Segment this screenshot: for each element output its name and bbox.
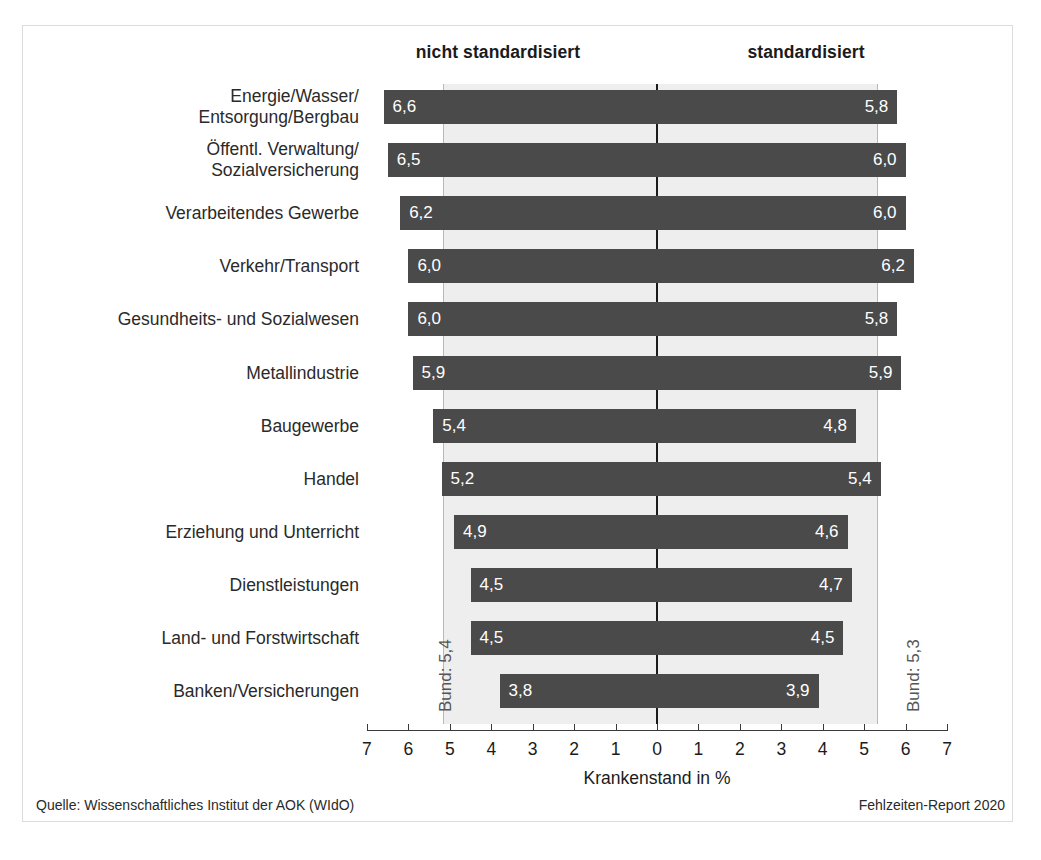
bund-label-left: Bund: 5,4: [436, 639, 456, 712]
bar-nicht-standardisiert: 5,2: [442, 462, 657, 496]
bar-value-label: 3,9: [786, 681, 810, 701]
x-axis-tick-label: 1: [611, 739, 621, 760]
category-label-line1: Verarbeitendes Gewerbe: [165, 203, 359, 223]
bar-value-label: 4,9: [463, 522, 487, 542]
category-label: Metallindustrie: [246, 362, 359, 383]
x-axis-tick: [491, 724, 492, 731]
bar-value-label: 6,0: [417, 309, 441, 329]
x-axis-tick: [450, 724, 451, 731]
category-label-line2: Entsorgung/Bergbau: [198, 107, 359, 128]
bar-nicht-standardisiert: 6,0: [408, 249, 657, 283]
category-label: Land- und Forstwirtschaft: [162, 628, 359, 649]
bar-value-label: 5,8: [865, 309, 889, 329]
x-axis-tick-label: 3: [528, 739, 538, 760]
bar-value-label: 5,9: [869, 363, 893, 383]
bar-value-label: 5,9: [422, 363, 446, 383]
bar-standardisiert: 4,7: [657, 568, 852, 602]
chart-row: Dienstleistungen4,54,7: [0, 568, 1041, 602]
bar-standardisiert: 5,8: [657, 302, 897, 336]
chart-row: Baugewerbe5,44,8: [0, 409, 1041, 443]
category-label: Verkehr/Transport: [220, 256, 359, 277]
x-axis-tick-label: 2: [569, 739, 579, 760]
chart-row: Energie/Wasser/Entsorgung/Bergbau6,65,8: [0, 90, 1041, 124]
bar-standardisiert: 5,4: [657, 462, 881, 496]
bar-standardisiert: 4,8: [657, 409, 856, 443]
bar-value-label: 6,0: [873, 203, 897, 223]
bar-standardisiert: 5,9: [657, 356, 901, 390]
chart-row: Öffentl. Verwaltung/Sozialversicherung6,…: [0, 143, 1041, 177]
category-label-line1: Metallindustrie: [246, 362, 359, 382]
footer-source: Quelle: Wissenschaftliches Institut der …: [36, 797, 354, 813]
x-axis-tick-label: 6: [901, 739, 911, 760]
category-label-line1: Dienstleistungen: [230, 574, 359, 594]
bar-nicht-standardisiert: 4,5: [471, 621, 657, 655]
footer-report: Fehlzeiten-Report 2020: [859, 797, 1005, 813]
x-axis-tick: [616, 724, 617, 731]
category-label-line1: Energie/Wasser/: [230, 86, 359, 106]
bar-value-label: 6,5: [397, 150, 421, 170]
x-axis-tick: [740, 724, 741, 731]
category-label: Banken/Versicherungen: [173, 681, 359, 702]
category-label: Handel: [304, 468, 359, 489]
x-axis-tick-label: 7: [942, 739, 952, 760]
bund-label-right: Bund: 5,3: [904, 639, 924, 712]
category-label: Dienstleistungen: [230, 574, 359, 595]
x-axis-tick-label: 6: [404, 739, 414, 760]
bar-nicht-standardisiert: 3,8: [500, 674, 657, 708]
x-axis-tick: [367, 724, 368, 731]
panel-title-nicht-standardisiert: nicht standardisiert: [416, 42, 580, 63]
bar-value-label: 6,0: [873, 150, 897, 170]
bar-value-label: 5,4: [848, 469, 872, 489]
x-axis-title: Krankenstand in %: [584, 768, 731, 789]
x-axis-tick: [574, 724, 575, 731]
chart-row: Gesundheits- und Sozialwesen6,05,8: [0, 302, 1041, 336]
bar-value-label: 6,2: [409, 203, 433, 223]
category-label: Verarbeitendes Gewerbe: [165, 203, 359, 224]
x-axis-tick-label: 5: [445, 739, 455, 760]
bar-nicht-standardisiert: 4,9: [454, 515, 657, 549]
bar-standardisiert: 4,6: [657, 515, 848, 549]
bar-standardisiert: 6,0: [657, 143, 906, 177]
x-axis-tick-label: 3: [776, 739, 786, 760]
x-axis-tick: [781, 724, 782, 731]
x-axis-tick-label: 0: [652, 739, 662, 760]
category-label-line1: Verkehr/Transport: [220, 256, 359, 276]
category-label: Energie/Wasser/Entsorgung/Bergbau: [198, 86, 359, 128]
bar-value-label: 6,6: [393, 97, 417, 117]
x-axis-tick-label: 4: [818, 739, 828, 760]
x-axis-tick: [823, 724, 824, 731]
category-label-line1: Handel: [304, 468, 359, 488]
category-label: Gesundheits- und Sozialwesen: [118, 309, 359, 330]
x-axis-tick-label: 5: [859, 739, 869, 760]
chart-row: Verarbeitendes Gewerbe6,26,0: [0, 196, 1041, 230]
bar-standardisiert: 4,5: [657, 621, 843, 655]
x-axis-tick-label: 7: [362, 739, 372, 760]
x-axis-tick: [657, 724, 658, 731]
bar-standardisiert: 6,0: [657, 196, 906, 230]
bar-nicht-standardisiert: 6,0: [408, 302, 657, 336]
x-axis-tick-label: 1: [694, 739, 704, 760]
x-axis-tick: [906, 724, 907, 731]
x-axis-tick: [947, 724, 948, 731]
chart-row: Handel5,25,4: [0, 462, 1041, 496]
bar-value-label: 4,8: [823, 416, 847, 436]
bar-nicht-standardisiert: 5,9: [413, 356, 657, 390]
category-label-line1: Banken/Versicherungen: [173, 681, 359, 701]
x-axis-tick: [698, 724, 699, 731]
bar-value-label: 3,8: [509, 681, 533, 701]
x-axis-tick-label: 2: [735, 739, 745, 760]
chart-row: Banken/Versicherungen3,83,9: [0, 674, 1041, 708]
x-axis-tick: [408, 724, 409, 731]
category-label-line1: Gesundheits- und Sozialwesen: [118, 309, 359, 329]
bar-nicht-standardisiert: 6,6: [384, 90, 657, 124]
bar-value-label: 4,7: [819, 575, 843, 595]
x-axis-tick-label: 4: [486, 739, 496, 760]
category-label: Öffentl. Verwaltung/Sozialversicherung: [207, 139, 359, 181]
category-label-line1: Baugewerbe: [261, 415, 359, 435]
bar-nicht-standardisiert: 6,5: [388, 143, 657, 177]
chart-row: Metallindustrie5,95,9: [0, 356, 1041, 390]
diverging-bar-chart: nicht standardisiert standardisiert Ener…: [0, 0, 1041, 860]
category-label-line2: Sozialversicherung: [207, 160, 359, 181]
x-axis-tick: [864, 724, 865, 731]
bar-value-label: 4,5: [811, 628, 835, 648]
